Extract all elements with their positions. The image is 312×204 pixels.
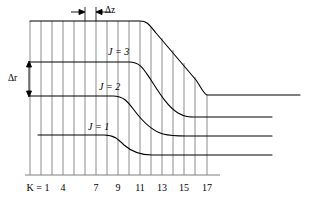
j-label-1: J = 1: [88, 122, 109, 132]
delta-r-label: Δr: [8, 74, 17, 84]
delta-z-right-arrowhead: [96, 9, 102, 14]
j-constant-lines: [30, 21, 300, 155]
j-line-1: [38, 135, 272, 155]
j-label-2-text: J = 2: [99, 81, 120, 92]
k-tick-label-9: 9: [116, 182, 121, 193]
delta-z-left-arrowhead: [79, 9, 85, 14]
k-tick-label-1: K = 1: [27, 182, 50, 193]
j-line-outer-boundary: [30, 21, 300, 95]
j-label-1-text: J = 1: [88, 121, 109, 132]
k-tick-7-text: 7: [94, 182, 99, 193]
vertical-grid-lines: [30, 21, 207, 175]
k-tick-label-7: 7: [94, 182, 99, 193]
k-tick-label-11: 11: [135, 182, 145, 193]
k-tick-1-text: K = 1: [27, 182, 50, 193]
j-label-2: J = 2: [99, 82, 120, 92]
j-label-3-text: J = 3: [108, 46, 129, 57]
delta-r-text: Δr: [8, 73, 17, 83]
k-tick-15-text: 15: [179, 182, 189, 193]
k-tick-label-17: 17: [202, 182, 212, 193]
mesh-drawing: [0, 0, 312, 204]
delta-r-dimension: [27, 61, 32, 97]
grid-diagram-figure: Δz Δr J = 3 J = 2 J = 1 K = 1 4 7 9 11 1…: [0, 0, 312, 204]
delta-z-text: Δz: [105, 5, 115, 15]
k-tick-label-13: 13: [157, 182, 167, 193]
k-tick-11-text: 11: [135, 182, 145, 193]
delta-z-label: Δz: [105, 6, 115, 16]
k-tick-4-text: 4: [61, 182, 66, 193]
k-tick-label-15: 15: [179, 182, 189, 193]
j-label-3: J = 3: [108, 47, 129, 57]
k-tick-17-text: 17: [202, 182, 212, 193]
k-tick-label-4: 4: [61, 182, 66, 193]
k-tick-13-text: 13: [157, 182, 167, 193]
k-tick-9-text: 9: [116, 182, 121, 193]
